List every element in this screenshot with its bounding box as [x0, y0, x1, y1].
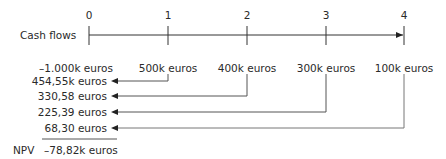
- discount-connector-1: [111, 74, 168, 84]
- discounted-value-3: 225,39 euros: [38, 106, 107, 118]
- discount-connector-4: [111, 74, 404, 131]
- period-0: 0: [86, 9, 93, 21]
- cash-flow-0: –1.000k euros: [39, 62, 113, 74]
- period-2: 2: [244, 9, 251, 21]
- cash-flow-1: 500k euros: [139, 62, 198, 74]
- period-3: 3: [323, 9, 330, 21]
- discount-connector-2: [111, 74, 247, 99]
- cash-flow-2: 400k euros: [218, 62, 277, 74]
- period-1: 1: [165, 9, 172, 21]
- discounted-value-2: 330,58 euros: [38, 90, 107, 102]
- npv-value: –78,82k euros: [44, 144, 118, 156]
- discounted-value-4: 68,30 euros: [45, 122, 108, 134]
- discount-connector-3: [111, 74, 326, 115]
- cash-flow-4: 100k euros: [375, 62, 434, 74]
- discounted-value-1: 454,55k euros: [32, 75, 107, 87]
- npv-label: NPV: [13, 144, 34, 156]
- cash-flow-3: 300k euros: [297, 62, 356, 74]
- period-4: 4: [401, 9, 408, 21]
- cash-flows-label: Cash flows: [20, 29, 76, 41]
